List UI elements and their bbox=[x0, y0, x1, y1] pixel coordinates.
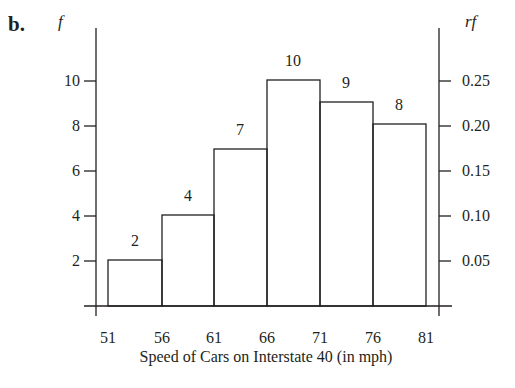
bar-value-label: 7 bbox=[220, 122, 260, 138]
x-tick-label: 61 bbox=[204, 330, 224, 346]
bar-66-71 bbox=[267, 80, 320, 306]
right-tick-label: 0.05 bbox=[462, 253, 490, 269]
x-tick-label: 71 bbox=[310, 330, 330, 346]
x-tick-label: 51 bbox=[98, 330, 118, 346]
bar-value-label: 4 bbox=[168, 188, 208, 204]
bar-56-61 bbox=[162, 215, 214, 306]
right-tick-label: 0.25 bbox=[462, 73, 490, 89]
right-tick-label: 0.10 bbox=[462, 208, 490, 224]
left-tick-label: 10 bbox=[56, 73, 80, 89]
left-tick-label: 8 bbox=[60, 118, 80, 134]
bar-71-76 bbox=[320, 102, 373, 306]
left-tick-label: 4 bbox=[60, 208, 80, 224]
x-axis-label: Speed of Cars on Interstate 40 (in mph) bbox=[96, 348, 436, 366]
bar-value-label: 9 bbox=[326, 75, 366, 91]
left-tick-label: 6 bbox=[60, 163, 80, 179]
bar-value-label: 10 bbox=[273, 53, 313, 69]
bar-61-66 bbox=[214, 149, 267, 306]
bar-51-56 bbox=[108, 260, 162, 306]
x-tick-label: 56 bbox=[152, 330, 172, 346]
right-tick-label: 0.20 bbox=[462, 118, 490, 134]
x-tick-label: 76 bbox=[363, 330, 383, 346]
x-tick-label: 81 bbox=[416, 330, 436, 346]
left-tick-label: 2 bbox=[60, 253, 80, 269]
bar-value-label: 2 bbox=[115, 233, 155, 249]
x-tick-label: 66 bbox=[257, 330, 277, 346]
bar-76-81 bbox=[373, 124, 426, 306]
bar-value-label: 8 bbox=[379, 97, 419, 113]
right-tick-label: 0.15 bbox=[462, 163, 490, 179]
